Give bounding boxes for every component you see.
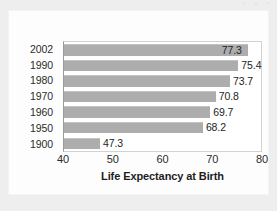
bar-row: 47.3: [64, 135, 261, 151]
bar: [64, 75, 230, 87]
bar-row: 77.3: [64, 42, 261, 58]
x-tick-label: 70: [206, 154, 218, 165]
category-label: 1960: [18, 104, 58, 120]
scan-artifact: [266, 2, 269, 4]
scan-artifact: [243, 2, 246, 5]
bar-row: 73.7: [64, 73, 261, 89]
bar: [64, 106, 210, 118]
bar-value-label: 47.3: [103, 138, 123, 149]
bar: [64, 44, 248, 56]
bar: [64, 122, 203, 134]
category-label: 1970: [18, 89, 58, 105]
x-axis-title: Life Expectancy at Birth: [63, 170, 262, 182]
category-axis-labels: 2002199019801970196019501900: [18, 41, 58, 152]
bar-value-label: 70.8: [219, 91, 239, 102]
bar-value-label: 68.2: [206, 122, 226, 133]
scan-artifact: [254, 3, 258, 5]
bar-value-label: 77.3: [222, 45, 242, 56]
x-axis-tick-labels: 4050607080: [63, 154, 262, 168]
bar: [64, 138, 100, 150]
bar-row: 70.8: [64, 89, 261, 105]
life-expectancy-bar-chart: 2002199019801970196019501900 77.375.473.…: [18, 27, 265, 187]
category-label: 2002: [18, 41, 58, 57]
x-tick-label: 50: [107, 154, 119, 165]
category-label: 1980: [18, 73, 58, 89]
category-label: 1900: [18, 136, 58, 152]
chart-page: 2002199019801970196019501900 77.375.473.…: [0, 0, 277, 211]
bar: [64, 60, 238, 72]
x-tick-label: 80: [256, 154, 268, 165]
bar-row: 75.4: [64, 58, 261, 74]
bar-value-label: 69.7: [213, 107, 233, 118]
bar-series: 77.375.473.770.869.768.247.3: [64, 42, 261, 151]
bar-value-label: 75.4: [241, 60, 261, 71]
x-tick-label: 60: [156, 154, 168, 165]
category-label: 1950: [18, 120, 58, 136]
bar-row: 68.2: [64, 120, 261, 136]
category-label: 1990: [18, 57, 58, 73]
bar: [64, 91, 216, 103]
bar-value-label: 73.7: [233, 76, 253, 87]
x-tick-label: 40: [57, 154, 69, 165]
bar-row: 69.7: [64, 104, 261, 120]
plot-area: 77.375.473.770.869.768.247.3: [63, 41, 262, 152]
chart-card: 2002199019801970196019501900 77.375.473.…: [9, 11, 268, 194]
